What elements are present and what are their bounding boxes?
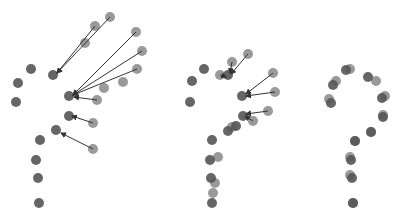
target-point (205, 155, 215, 165)
target-point (48, 70, 58, 80)
target-point (199, 64, 209, 74)
target-point (237, 91, 247, 101)
correspondence-arrow (57, 17, 110, 73)
panel-midway (185, 49, 280, 208)
panel-initial (11, 12, 147, 208)
target-point (341, 65, 351, 75)
target-point (185, 97, 195, 107)
correspondence-arrow (61, 133, 93, 149)
question-mark-point-registration-diagram (0, 0, 400, 220)
target-point (11, 97, 21, 107)
target-point (366, 127, 376, 137)
target-point (34, 198, 44, 208)
correspondence-arrow (246, 73, 273, 94)
target-point (378, 112, 388, 122)
target-point (223, 126, 233, 136)
target-point (377, 93, 387, 103)
target-point (326, 98, 336, 108)
source-point (99, 83, 109, 93)
target-point (363, 72, 373, 82)
target-point (206, 173, 216, 183)
source-point (118, 77, 128, 87)
target-point (31, 155, 41, 165)
source-point (208, 188, 218, 198)
target-point (346, 155, 356, 165)
target-point (26, 64, 36, 74)
panel-final (324, 64, 390, 208)
target-point (64, 91, 74, 101)
target-point (348, 198, 358, 208)
target-point (35, 135, 45, 145)
correspondence-arrow (57, 26, 95, 73)
target-point (187, 76, 197, 86)
target-point (33, 173, 43, 183)
target-point (328, 80, 338, 90)
target-point (51, 125, 61, 135)
target-point (207, 198, 217, 208)
target-point (13, 78, 23, 88)
target-point (207, 135, 217, 145)
point-matching-figure (0, 0, 400, 220)
target-point (238, 111, 248, 121)
target-point (347, 173, 357, 183)
target-point (223, 70, 233, 80)
target-point (350, 136, 360, 146)
